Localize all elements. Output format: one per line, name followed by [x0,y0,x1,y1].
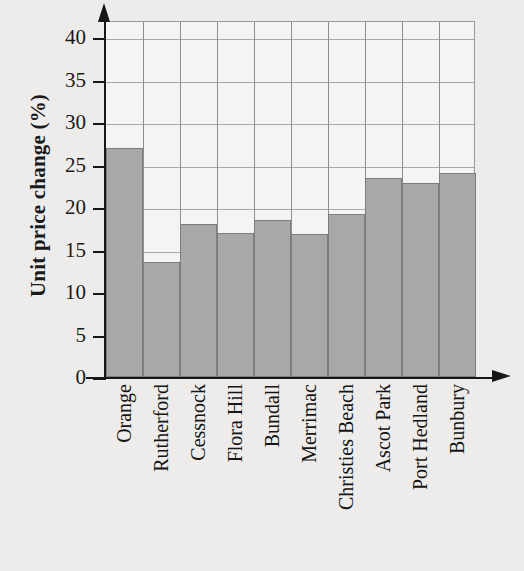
x-label-slot-1: Rutherford [142,384,179,554]
bar-christies-beach [328,214,365,377]
y-tick-mark-10 [93,293,106,295]
y-tick-label-35: 35 [46,70,86,91]
x-axis-label-christies-beach: Christies Beach [336,384,356,510]
x-axis-label-bunbury: Bunbury [447,384,467,454]
bar-rutherford [143,262,180,377]
y-tick-mark-5 [93,336,106,338]
y-tick-label-15: 15 [46,240,86,261]
x-axis-label-bundall: Bundall [262,384,282,447]
bar-chart-figure: Unit price change (%) 0510152025303540 O… [0,0,524,571]
x-label-slot-9: Bunbury [438,384,475,554]
x-axis-label-merrimac: Merrimac [299,384,319,463]
bar-merrimac [291,234,328,377]
bar-ascot-park [365,178,402,377]
x-label-slot-3: Flora Hill [216,384,253,554]
arrow-up-icon [98,3,110,22]
y-axis-line [104,18,106,379]
x-axis-label-orange: Orange [114,384,134,443]
x-axis-label-cessnock: Cessnock [188,384,208,461]
y-tick-label-25: 25 [46,155,86,176]
y-tick-label-0: 0 [46,367,86,388]
bar-bunbury [439,173,476,377]
y-tick-mark-40 [93,38,106,40]
x-label-slot-4: Bundall [253,384,290,554]
y-tick-label-5: 5 [46,325,86,346]
x-axis-label-port-hedland: Port Hedland [410,384,430,490]
y-tick-label-20: 20 [46,197,86,218]
x-label-slot-6: Christies Beach [327,384,364,554]
x-axis-label-rutherford: Rutherford [151,384,171,472]
x-axis-label-ascot-park: Ascot Park [373,384,393,472]
arrow-right-icon [492,370,511,382]
y-tick-mark-15 [93,251,106,253]
y-tick-label-40: 40 [46,27,86,48]
y-axis-tick-labels: 0510152025303540 [42,0,86,400]
y-tick-label-30: 30 [46,112,86,133]
bars-layer [106,22,474,377]
bar-port-hedland [402,183,439,377]
x-axis-line [86,377,494,379]
y-tick-mark-20 [93,208,106,210]
x-label-slot-8: Port Hedland [401,384,438,554]
plot-area [105,21,475,378]
bar-flora-hill [217,233,254,378]
y-tick-mark-30 [93,123,106,125]
bar-orange [106,148,143,378]
y-tick-mark-35 [93,81,106,83]
x-label-slot-2: Cessnock [179,384,216,554]
bar-bundall [254,220,291,377]
y-tick-label-10: 10 [46,282,86,303]
x-label-slot-7: Ascot Park [364,384,401,554]
x-axis-label-flora-hill: Flora Hill [225,384,245,462]
bar-cessnock [180,224,217,377]
x-axis-category-labels: OrangeRutherfordCessnockFlora HillBundal… [105,384,505,564]
x-label-slot-5: Merrimac [290,384,327,554]
y-tick-mark-0 [93,378,106,380]
y-tick-mark-25 [93,166,106,168]
x-label-slot-0: Orange [105,384,142,554]
